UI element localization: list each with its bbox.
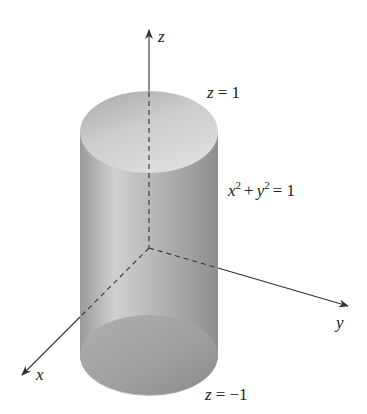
top-cap-label: z= 1: [206, 83, 240, 102]
x-axis-visible: [22, 317, 80, 375]
cylinder-diagram: z y x z= 1 x2+y2= 1 z= −1: [0, 0, 367, 414]
x-axis-label: x: [35, 365, 44, 384]
cylinder-equation-label: x2+y2= 1: [227, 179, 295, 200]
z-axis-label: z: [157, 27, 165, 46]
cylinder-surface: [80, 91, 218, 396]
y-axis-label: y: [334, 313, 344, 332]
bottom-cap: [80, 315, 218, 395]
bottom-cap-label: z= −1: [204, 385, 248, 404]
y-axis-visible: [218, 268, 348, 306]
